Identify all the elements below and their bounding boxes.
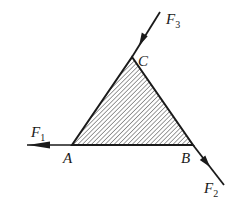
force-label-f1: F1	[30, 124, 45, 143]
force-label-f2: F2	[203, 180, 218, 199]
arrow-left-icon	[28, 142, 50, 149]
force-label-f2-sub: 2	[213, 188, 218, 199]
force-diagram: A B C F1 F2 F3	[0, 0, 239, 209]
force-label-f1-sub: 1	[40, 132, 45, 143]
force-f1	[27, 142, 72, 149]
force-f3	[132, 12, 160, 57]
force-label-f3-sub: 3	[175, 19, 180, 30]
vertex-label-a: A	[62, 150, 73, 166]
vertex-label-b: B	[181, 150, 190, 166]
triangle-plate	[72, 57, 193, 145]
vertex-label-c: C	[138, 53, 149, 69]
force-f2	[193, 145, 224, 185]
force-label-f3: F3	[165, 11, 180, 30]
arrow-down-right-icon	[200, 156, 210, 167]
